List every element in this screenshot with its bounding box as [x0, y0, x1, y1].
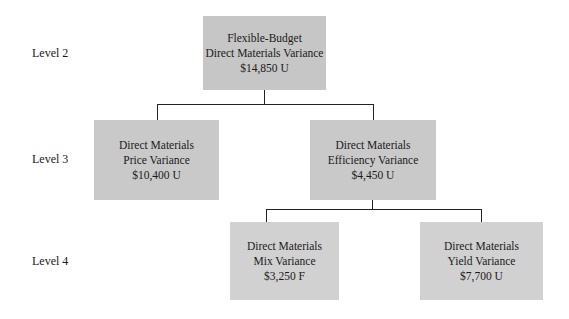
level-2-label: Level 2 [32, 46, 68, 61]
level-3-label: Level 3 [32, 152, 68, 167]
node-price-variance: Direct Materials Price Variance $10,400 … [94, 120, 219, 200]
node-amount: $3,250 F [264, 269, 305, 284]
connector-to-efficiency [373, 104, 374, 120]
node-title-line2: Efficiency Variance [328, 153, 419, 168]
node-amount: $4,450 U [352, 168, 395, 183]
connector-to-price [157, 104, 158, 120]
node-amount: $7,700 U [460, 269, 503, 284]
node-title-line1: Flexible-Budget [227, 31, 302, 46]
node-amount: $14,850 U [240, 61, 289, 76]
node-title-line1: Direct Materials [119, 138, 194, 153]
node-yield-variance: Direct Materials Yield Variance $7,700 U [420, 222, 543, 300]
level-4-label: Level 4 [32, 254, 68, 269]
node-efficiency-variance: Direct Materials Efficiency Variance $4,… [310, 120, 436, 200]
node-title-line2: Direct Materials Variance [206, 46, 324, 61]
connector-to-yield [481, 209, 482, 222]
node-title-line2: Yield Variance [448, 254, 516, 269]
node-title-line1: Direct Materials [444, 239, 519, 254]
connector-level4-horizontal [266, 209, 482, 210]
node-amount: $10,400 U [132, 168, 181, 183]
node-title-line1: Direct Materials [247, 239, 322, 254]
node-flexible-budget-variance: Flexible-Budget Direct Materials Varianc… [203, 16, 326, 90]
connector-root-down [264, 90, 265, 105]
connector-level3-horizontal [157, 104, 374, 105]
node-title-line2: Mix Variance [253, 254, 315, 269]
node-title-line1: Direct Materials [335, 138, 410, 153]
connector-to-mix [266, 209, 267, 222]
node-mix-variance: Direct Materials Mix Variance $3,250 F [230, 222, 339, 300]
node-title-line2: Price Variance [123, 153, 190, 168]
